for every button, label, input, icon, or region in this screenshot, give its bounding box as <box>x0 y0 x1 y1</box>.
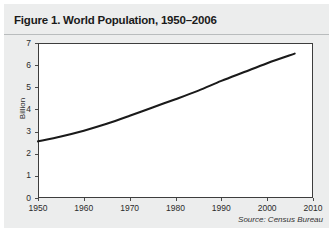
source-note: Source: Census Bureau <box>238 215 323 224</box>
chart-plot-area: Billion 01234567 19501960197019801990200… <box>4 4 329 228</box>
population-line-series <box>4 4 329 228</box>
population-line-path <box>38 54 295 142</box>
figure-card: Figure 1. World Population, 1950–2006 Bi… <box>4 4 329 228</box>
